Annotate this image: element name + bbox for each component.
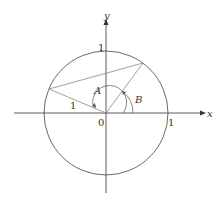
angle-b-label: B: [134, 94, 142, 105]
x-axis-label: x: [207, 108, 213, 119]
radius-to-b: [106, 63, 143, 113]
y-axis-label: y: [103, 10, 110, 21]
unit-circle-diagram: y x 1 1 0 1 A B: [0, 0, 218, 197]
angle-a-label: A: [93, 85, 101, 96]
x-tick-label: 1: [168, 117, 174, 128]
radius-label: 1: [70, 100, 76, 111]
y-tick-label: 1: [98, 42, 104, 53]
angle-b-arrow-icon: [122, 91, 126, 95]
x-axis-arrow-icon: [200, 111, 206, 116]
origin-label: 0: [98, 117, 104, 128]
